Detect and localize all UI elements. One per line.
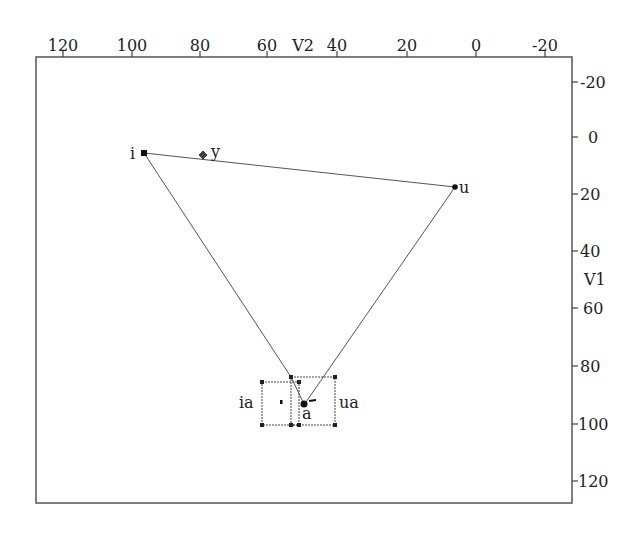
y-tick-label: 120 xyxy=(578,472,609,491)
y-tick-label: 40 xyxy=(580,242,600,261)
point-a-tick xyxy=(309,400,316,401)
x-tick-label: 100 xyxy=(117,36,148,55)
vowel-lines xyxy=(144,153,455,404)
label-u: u xyxy=(459,178,469,197)
line-i-u xyxy=(144,153,455,187)
label-i: i xyxy=(130,144,135,163)
point-ia-marker xyxy=(280,400,283,404)
point-u-marker xyxy=(452,184,458,190)
label-ia: ia xyxy=(239,393,254,412)
x-tick-label: 0 xyxy=(471,36,481,55)
label-y: y xyxy=(210,142,220,161)
x-tick-label: 120 xyxy=(48,36,79,55)
x-axis-title: V2 xyxy=(291,36,314,55)
x-tick-label: 80 xyxy=(190,36,210,55)
y-tick-label: 60 xyxy=(583,299,603,318)
x-tick-label: 40 xyxy=(327,36,347,55)
y-tick-label: 80 xyxy=(580,357,600,376)
x-tick-label: 60 xyxy=(257,36,277,55)
y-tick-label: 20 xyxy=(580,185,600,204)
x-tick-label: -20 xyxy=(532,36,558,55)
y-tick-label: -20 xyxy=(580,73,606,92)
label-ua: ua xyxy=(339,393,359,412)
vowel-formant-chart: 120 100 80 60 40 20 0 -20 V2 -20 0 20 40… xyxy=(0,0,644,533)
y-tick-label: 100 xyxy=(578,415,609,434)
x-tick-label: 20 xyxy=(397,36,417,55)
line-i-a xyxy=(144,153,304,404)
point-i-marker xyxy=(141,150,147,156)
range-boxes xyxy=(262,377,335,425)
point-y-marker xyxy=(199,151,207,159)
label-a: a xyxy=(302,404,312,423)
y-tick-label: 0 xyxy=(588,128,598,147)
line-u-a xyxy=(306,187,455,402)
y-axis-title: V1 xyxy=(583,270,606,289)
plot-frame xyxy=(36,57,572,503)
